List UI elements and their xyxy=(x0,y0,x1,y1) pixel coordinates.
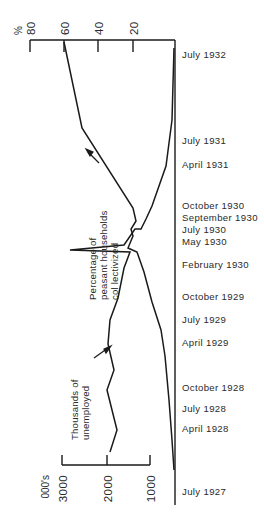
date-label: July 1929 xyxy=(182,314,226,325)
bottom-axis-label-1000: 1000 xyxy=(145,475,157,502)
bottom-axis: 3000 2000 1000 000's xyxy=(40,455,157,502)
date-label: July 1927 xyxy=(182,486,226,497)
unemployment-annotation-line-2: unemployed xyxy=(80,386,91,440)
chart-figure: 80 60 40 20 % Percentage of peasant hous… xyxy=(0,0,264,532)
date-label: July 1928 xyxy=(182,403,226,414)
date-label: July 1931 xyxy=(182,135,226,146)
date-label: April 1928 xyxy=(182,423,229,434)
date-label-list: July 1932 July 1931 April 1931 October 1… xyxy=(182,49,258,497)
collectivization-annotation-line-1: Percentage of xyxy=(87,238,98,300)
bottom-axis-unit-label: 000's xyxy=(40,475,51,499)
unemployment-annotation-arrow-icon xyxy=(94,346,111,358)
unemployment-annotation-line-1: Thousands of xyxy=(69,379,80,440)
date-label: February 1930 xyxy=(182,259,249,270)
date-label: October 1930 xyxy=(182,200,244,211)
top-axis-label-80: 80 xyxy=(25,21,37,35)
top-axis-label-20: 20 xyxy=(128,21,140,35)
date-label: April 1931 xyxy=(182,159,229,170)
date-label: October 1929 xyxy=(182,291,244,302)
bottom-axis-label-3000: 3000 xyxy=(57,475,69,502)
date-label: October 1928 xyxy=(182,382,244,393)
top-axis-unit-label: % xyxy=(13,26,24,35)
top-axis: 80 60 40 20 % xyxy=(13,21,175,52)
collectivization-annotation-line-2: peasant households xyxy=(98,211,109,300)
collectivization-annotation: Percentage of peasant households col lec… xyxy=(86,149,120,300)
unemployment-annotation: Thousands of unemployed xyxy=(69,346,111,440)
collectivization-annotation-line-3: col lectivized xyxy=(109,243,120,300)
top-axis-label-60: 60 xyxy=(59,21,71,35)
top-axis-label-40: 40 xyxy=(93,21,105,35)
date-label: July 1930 xyxy=(182,224,226,235)
date-label: April 1929 xyxy=(182,337,229,348)
date-label: July 1932 xyxy=(182,49,226,60)
chart-svg: 80 60 40 20 % Percentage of peasant hous… xyxy=(0,0,264,532)
bottom-axis-label-2000: 2000 xyxy=(102,475,114,502)
date-label: September 1930 xyxy=(182,212,258,223)
date-label: May 1930 xyxy=(182,236,227,247)
